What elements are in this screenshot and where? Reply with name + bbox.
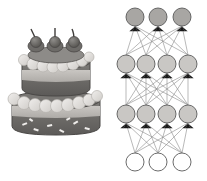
network-edge bbox=[126, 123, 182, 153]
image-canvas bbox=[0, 0, 207, 181]
cake-top-tier bbox=[19, 47, 95, 96]
network-node-hidden-layer-1 bbox=[158, 105, 176, 123]
network-node-hidden-layer-2 bbox=[137, 55, 155, 73]
cherry-with-stem-icon bbox=[66, 29, 82, 52]
cake-bottom-tier bbox=[8, 91, 103, 136]
cake-illustration-panel bbox=[0, 0, 107, 181]
network-node-output-layer bbox=[173, 8, 191, 26]
network-node-hidden-layer-1 bbox=[137, 105, 155, 123]
network-node-output-layer bbox=[126, 8, 144, 26]
neural-network-svg bbox=[107, 0, 207, 181]
network-edges-group bbox=[126, 26, 188, 153]
cherry-with-stem-icon bbox=[47, 28, 63, 52]
network-node-output-layer bbox=[149, 8, 167, 26]
neural-network-panel bbox=[107, 0, 207, 181]
network-node-hidden-layer-2 bbox=[117, 55, 135, 73]
network-node-hidden-layer-1 bbox=[117, 105, 135, 123]
cake-toppers bbox=[28, 28, 82, 52]
network-node-input-layer bbox=[126, 153, 144, 171]
network-node-hidden-layer-2 bbox=[179, 55, 197, 73]
cake-svg bbox=[0, 0, 107, 181]
network-node-input-layer bbox=[149, 153, 167, 171]
cherry-with-stem-icon bbox=[28, 29, 44, 52]
network-node-hidden-layer-2 bbox=[158, 55, 176, 73]
network-node-input-layer bbox=[173, 153, 191, 171]
network-node-hidden-layer-1 bbox=[179, 105, 197, 123]
